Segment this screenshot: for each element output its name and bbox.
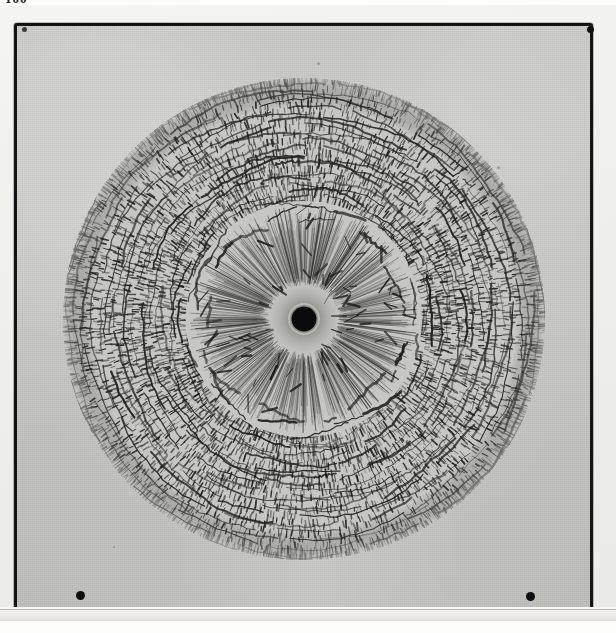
- radial-fracture-figure: [63, 78, 545, 560]
- registration-dot-top-left: [22, 27, 27, 32]
- photo-mount: [0, 5, 616, 621]
- paper-edge: [0, 607, 616, 621]
- registration-dot-bottom-left: [76, 591, 85, 600]
- plate-page: 100: [0, 0, 616, 633]
- plate-speck: [497, 166, 500, 169]
- plate-speck: [317, 62, 320, 65]
- registration-dot-top-right: [587, 26, 594, 33]
- plate-frame: [14, 23, 593, 616]
- registration-dot-bottom-right: [526, 592, 535, 601]
- plate-speck: [113, 546, 115, 548]
